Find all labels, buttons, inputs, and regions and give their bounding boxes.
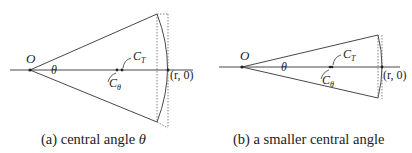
panel-b-figure: O θ CT Cθ (r, 0) [219, 35, 407, 99]
panel-a-bottom-dotted [157, 122, 168, 128]
panel-a-ct-label: CT [133, 49, 146, 65]
panel-a-origin-dot [28, 68, 31, 71]
panel-a-r0-dot [167, 69, 170, 72]
panel-b-angle-label: θ [281, 60, 287, 74]
panel-b-ct-label: CT [343, 47, 356, 63]
panel-a-lower-ray [30, 70, 157, 122]
panel-b-origin-label: O [240, 48, 250, 63]
panel-b-ctheta-label: Cθ [322, 73, 334, 89]
panel-b-point-label: (r, 0) [383, 68, 407, 82]
panel-a-arc [157, 14, 168, 122]
panel-a-ctheta-dot [116, 69, 119, 72]
panel-b-upper-ray [242, 35, 378, 67]
panel-a-origin-label: O [26, 51, 36, 66]
panel-a-figure: O θ CT Cθ (r, 0) [10, 14, 194, 128]
panel-a-ct-arrow [123, 58, 131, 68]
panel-a-angle-label: θ [51, 63, 57, 77]
panel-a-point-label: (r, 0) [170, 68, 194, 82]
panel-a-caption: (a) central angle θ [41, 131, 146, 148]
panel-a-ctheta-label: Cθ [109, 76, 121, 92]
panel-b-ct-arrow [333, 55, 341, 65]
panel-b-origin-dot [240, 65, 243, 68]
panel-b-lower-ray [242, 67, 378, 98]
panel-a-ct-dot [121, 69, 124, 72]
panel-b-caption: (b) a smaller central angle [233, 131, 384, 148]
panel-b-ct-dot [331, 66, 334, 69]
